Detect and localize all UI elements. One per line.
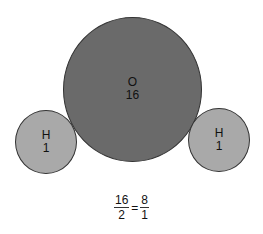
equals-sign: = [131, 201, 138, 215]
fraction-right: 8 1 [140, 194, 149, 221]
hydrogen-atom-left: H 1 [15, 110, 77, 174]
fraction-left-numerator: 16 [114, 194, 129, 208]
hydrogen-left-mass: 1 [43, 142, 50, 155]
mass-ratio-equation: 16 2 = 8 1 [0, 194, 263, 221]
fraction-right-denominator: 1 [141, 208, 148, 221]
fraction-left-denominator: 2 [118, 208, 125, 221]
hydrogen-atom-right: H 1 [188, 108, 250, 172]
hydrogen-right-mass: 1 [216, 140, 223, 153]
oxygen-symbol: O [128, 76, 137, 89]
oxygen-mass: 16 [126, 89, 139, 102]
oxygen-atom: O 16 [63, 17, 202, 162]
fraction-right-numerator: 8 [140, 194, 149, 208]
fraction-left: 16 2 [114, 194, 129, 221]
